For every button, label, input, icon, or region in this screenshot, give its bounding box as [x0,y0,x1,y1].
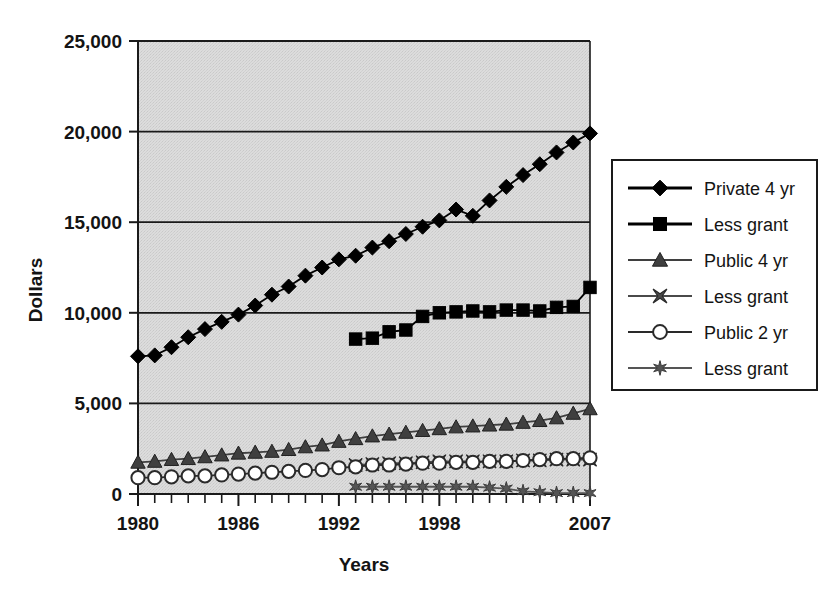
data-point-circle [533,453,546,466]
x-tick-label: 1992 [318,513,360,534]
data-point-circle [148,471,161,484]
data-point-circle [653,325,667,339]
data-point-circle [299,464,312,477]
legend-label: Private 4 yr [704,179,795,199]
data-point-square [450,306,462,318]
y-axis-title: Dollars [25,258,46,322]
data-point-circle [282,465,295,478]
x-tick-label: 1998 [418,513,460,534]
data-point-circle [249,467,262,480]
data-point-circle [466,456,479,469]
data-point-circle [500,455,513,468]
x-axis-title: Years [339,554,390,575]
data-point-square [349,333,361,345]
data-point-circle [383,458,396,471]
data-point-square [383,326,395,338]
data-point-square [567,300,579,312]
data-point-square [534,305,546,317]
x-tick-labels: 19801986199219982007 [117,513,611,534]
data-point-square [550,301,562,313]
data-point-circle [583,451,596,464]
data-point-circle [416,457,429,470]
data-point-circle [215,468,228,481]
x-tick-label: 1980 [117,513,159,534]
data-point-square [500,304,512,316]
data-point-circle [516,454,529,467]
line-chart: 05,00010,00015,00020,00025,000 198019861… [0,0,830,597]
data-point-circle [131,471,144,484]
data-point-circle [332,461,345,474]
data-point-circle [567,452,580,465]
legend-label: Less grant [704,287,788,307]
data-point-circle [483,455,496,468]
data-point-circle [449,456,462,469]
data-point-circle [550,452,563,465]
legend-label: Less grant [704,359,788,379]
data-point-square [366,332,378,344]
data-point-square [584,281,596,293]
data-point-square [433,307,445,319]
legend-label: Public 2 yr [704,323,788,343]
y-tick-label: 5,000 [74,393,122,414]
x-tick-label: 1986 [217,513,259,534]
legend-label: Public 4 yr [704,251,788,271]
data-point-circle [198,469,211,482]
data-point-circle [232,467,245,480]
y-tick-label: 25,000 [64,31,122,52]
data-point-circle [165,470,178,483]
data-point-circle [182,469,195,482]
y-tick-labels: 05,00010,00015,00020,00025,000 [64,31,122,505]
y-tick-label: 20,000 [64,122,122,143]
data-point-square [483,306,495,318]
data-point-square [467,305,479,317]
data-point-circle [366,458,379,471]
data-point-circle [265,466,278,479]
data-point-circle [349,460,362,473]
data-point-square [400,324,412,336]
chart-container: 05,00010,00015,00020,00025,000 198019861… [0,0,830,597]
data-point-square [653,217,666,230]
y-tick-label: 15,000 [64,212,122,233]
chart-legend: Private 4 yrLess grantPublic 4 yrLess gr… [612,160,817,390]
data-point-circle [399,458,412,471]
data-point-circle [316,463,329,476]
data-point-circle [433,457,446,470]
data-point-square [517,304,529,316]
data-point-square [416,310,428,322]
y-tick-label: 0 [111,484,122,505]
y-axis-ticks [129,41,138,494]
x-tick-label: 2007 [569,513,611,534]
y-tick-label: 10,000 [64,303,122,324]
legend-label: Less grant [704,215,788,235]
